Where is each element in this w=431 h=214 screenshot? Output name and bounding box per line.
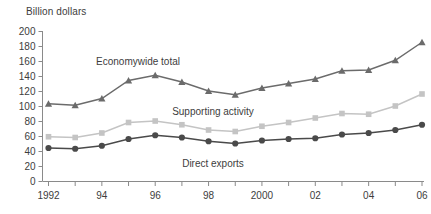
y-tick-label: 40 <box>24 146 36 157</box>
x-tick-label: 96 <box>150 190 162 201</box>
data-point-marker <box>205 138 211 144</box>
data-point-marker <box>98 95 105 102</box>
x-tick-label: 06 <box>416 190 428 201</box>
data-point-marker <box>232 140 238 146</box>
line-chart-plot: 020406080100120140160180200 199294969820… <box>0 0 431 214</box>
series-label-supporting-activity: Supporting activity <box>172 106 254 117</box>
data-point-marker <box>152 118 158 124</box>
data-point-marker <box>419 91 425 97</box>
x-tick-label: 02 <box>310 190 322 201</box>
data-point-marker <box>339 111 345 117</box>
data-point-marker <box>259 137 265 143</box>
x-axis-ticks: 19929496982000020406 <box>37 182 428 201</box>
x-tick-label: 2000 <box>251 190 274 201</box>
y-tick-label: 120 <box>19 86 36 97</box>
data-point-marker <box>45 145 51 151</box>
data-point-marker <box>232 129 238 135</box>
data-point-marker <box>419 122 425 128</box>
y-tick-label: 200 <box>19 26 36 37</box>
y-tick-label: 20 <box>24 161 36 172</box>
data-point-marker <box>312 115 318 121</box>
data-point-marker <box>72 146 78 152</box>
x-tick-label: 1992 <box>37 190 60 201</box>
x-tick-label: 98 <box>203 190 215 201</box>
data-point-marker <box>339 131 345 137</box>
y-tick-label: 180 <box>19 41 36 52</box>
data-point-marker <box>125 136 131 142</box>
y-axis-ticks: 020406080100120140160180200 <box>19 26 43 187</box>
x-tick-label: 04 <box>363 190 375 201</box>
data-point-marker <box>392 57 399 64</box>
y-tick-label: 80 <box>24 116 36 127</box>
data-point-marker <box>418 39 425 46</box>
data-point-marker <box>99 143 105 149</box>
data-point-marker <box>366 111 372 117</box>
data-point-marker <box>179 134 185 140</box>
y-tick-label: 0 <box>30 176 36 187</box>
data-point-marker <box>392 127 398 133</box>
data-point-marker <box>72 135 78 141</box>
y-tick-label: 140 <box>19 71 36 82</box>
y-tick-label: 60 <box>24 131 36 142</box>
y-tick-label: 100 <box>19 101 36 112</box>
chart-container: Billion dollars 020406080100120140160180… <box>0 0 431 214</box>
data-point-marker <box>152 132 158 138</box>
data-point-marker <box>179 122 185 128</box>
series-annotations: Economywide total Supporting activity Di… <box>96 56 254 169</box>
data-point-marker <box>206 127 212 133</box>
series-label-economywide-total: Economywide total <box>96 56 180 67</box>
data-point-marker <box>126 120 132 126</box>
data-point-marker <box>99 130 105 136</box>
data-point-marker <box>286 120 292 126</box>
x-tick-label: 94 <box>96 190 108 201</box>
series-label-direct-exports: Direct exports <box>182 158 244 169</box>
data-point-marker <box>393 103 399 109</box>
y-tick-label: 160 <box>19 56 36 67</box>
data-point-marker <box>286 136 292 142</box>
data-point-marker <box>152 72 159 79</box>
data-point-marker <box>46 134 52 140</box>
data-point-marker <box>366 130 372 136</box>
data-point-marker <box>259 123 265 129</box>
data-point-marker <box>312 135 318 141</box>
